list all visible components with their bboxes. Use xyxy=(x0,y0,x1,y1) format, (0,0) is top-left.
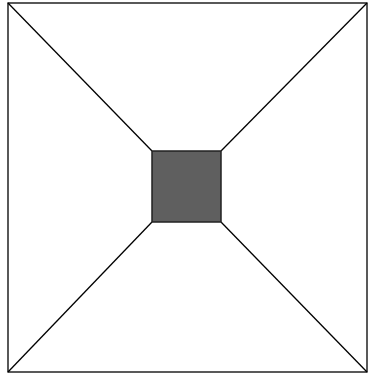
diagram-canvas xyxy=(0,0,375,381)
inner-filled-square xyxy=(152,151,221,222)
